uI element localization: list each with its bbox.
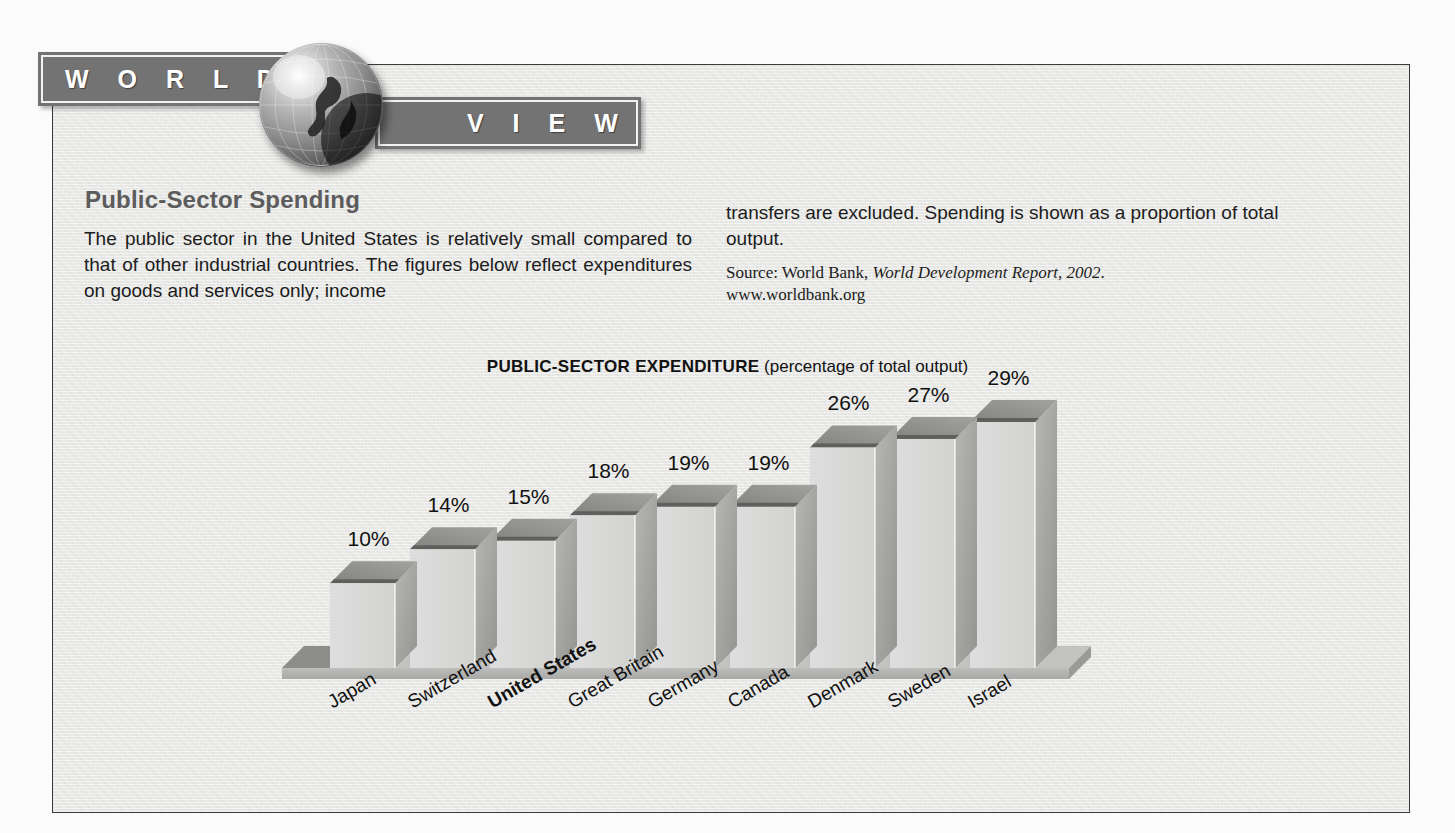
source-prefix: Source: World Bank, bbox=[726, 263, 873, 282]
bar-value-label: 29% bbox=[987, 366, 1029, 390]
page-title: Public-Sector Spending bbox=[85, 186, 360, 214]
intro-paragraph-right: transfers are excluded. Spending is show… bbox=[726, 200, 1340, 252]
bar-value-label: 19% bbox=[747, 451, 789, 475]
bar-value-label: 27% bbox=[907, 383, 949, 407]
source-title: World Development Report, 2002 bbox=[873, 263, 1101, 282]
chart-title-main: PUBLIC-SECTOR EXPENDITURE bbox=[487, 357, 760, 376]
bar-value-label: 26% bbox=[827, 391, 869, 415]
chart-title: PUBLIC-SECTOR EXPENDITURE (percentage of… bbox=[0, 357, 1455, 377]
bar-value-label: 10% bbox=[347, 527, 389, 551]
source-url: www.worldbank.org bbox=[726, 285, 865, 304]
bar-value-label: 14% bbox=[427, 493, 469, 517]
source-citation: Source: World Bank, World Development Re… bbox=[726, 262, 1340, 306]
source-suffix: . bbox=[1100, 263, 1104, 282]
bar-value-label: 19% bbox=[667, 451, 709, 475]
chart-title-sub: (percentage of total output) bbox=[764, 357, 968, 376]
bar-value-label: 18% bbox=[587, 459, 629, 483]
intro-paragraph-left: The public sector in the United States i… bbox=[84, 226, 692, 304]
bar-value-label: 15% bbox=[507, 485, 549, 509]
